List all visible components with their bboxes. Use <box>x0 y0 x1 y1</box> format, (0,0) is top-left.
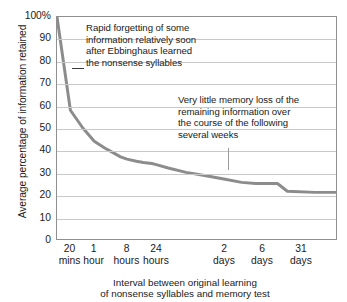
y-axis-tick-70: 70 <box>40 78 51 88</box>
x-axis-tick-unit: days <box>213 255 235 267</box>
x-axis-tick-unit: hour <box>83 255 104 267</box>
x-axis-tick-4: 2days <box>213 243 235 266</box>
x-axis-tick-value: 6 <box>251 243 273 255</box>
x-axis-tick-unit: days <box>290 255 312 267</box>
forgetting-curve-chart: Average percentage of information retain… <box>0 0 347 302</box>
gridline-30 <box>57 174 336 175</box>
x-axis-tick-value: 1 <box>83 243 104 255</box>
annotation-rapid-forgetting: Rapid forgetting of some information rel… <box>86 22 236 68</box>
x-axis-tick-value: 2 <box>213 243 235 255</box>
gridline-10 <box>57 219 336 220</box>
y-axis-tick-50: 50 <box>40 123 51 133</box>
annotation-little-memory-loss: Very little memory loss of the remaining… <box>178 94 338 140</box>
x-axis-title-line-2: of nonsense syllables and memory test <box>40 288 330 299</box>
y-axis-tick-labels: 100%9080706050403020100 <box>0 0 54 302</box>
x-axis-tick-6: 31days <box>290 243 312 266</box>
x-axis-tick-labels: 20mins1hour8hours24hours2days6days31days <box>56 243 337 277</box>
x-axis-tick-unit: hours <box>114 255 140 267</box>
x-axis-tick-value: 8 <box>114 243 140 255</box>
x-axis-tick-3: 24hours <box>143 243 169 266</box>
x-axis-tick-value: 24 <box>143 243 169 255</box>
x-axis-tick-unit: hours <box>143 255 169 267</box>
x-axis-tick-value: 20 <box>59 243 81 255</box>
x-axis-tick-0: 20mins <box>59 243 81 266</box>
y-axis-tick-30: 30 <box>40 168 51 178</box>
x-axis-title-line-1: Interval between original learning <box>40 277 330 288</box>
gridline-20 <box>57 196 336 197</box>
x-axis-tick-2: 8hours <box>114 243 140 266</box>
gridline-40 <box>57 151 336 152</box>
leader-line-little-loss <box>228 148 229 170</box>
y-axis-tick-40: 40 <box>40 145 51 155</box>
x-axis-tick-unit: days <box>251 255 273 267</box>
y-axis-tick-80: 80 <box>40 56 51 66</box>
leader-line-rapid-forgetting <box>72 68 84 69</box>
x-axis-tick-value: 31 <box>290 243 312 255</box>
y-axis-tick-60: 60 <box>40 101 51 111</box>
x-axis-title: Interval between original learning of no… <box>40 277 330 300</box>
x-axis-tick-unit: mins <box>59 255 81 267</box>
y-axis-tick-90: 90 <box>40 33 51 43</box>
y-axis-tick-10: 10 <box>40 213 51 223</box>
gridline-70 <box>57 84 336 85</box>
y-axis-tick-0: 0 <box>45 235 51 245</box>
x-axis-tick-5: 6days <box>251 243 273 266</box>
y-axis-tick-20: 20 <box>40 190 51 200</box>
y-axis-tick-100: 100% <box>25 11 51 21</box>
x-axis-tick-1: 1hour <box>83 243 104 266</box>
